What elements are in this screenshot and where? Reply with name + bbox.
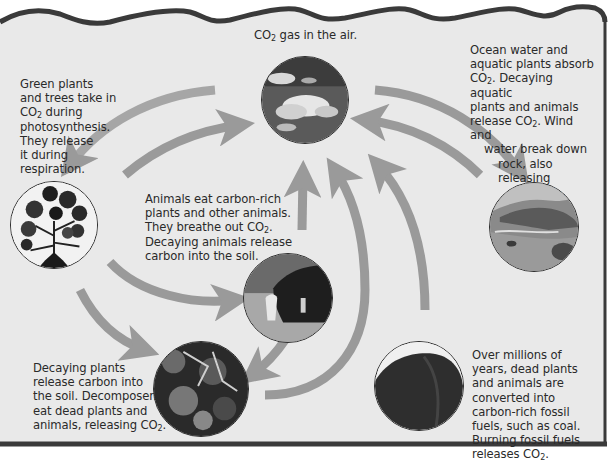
caption-text: the soil. Decomposers — [33, 389, 160, 403]
caption-line: photosynthesis. — [20, 120, 116, 134]
caption-line: and animals are — [472, 376, 580, 390]
caption-text: releases CO — [472, 447, 540, 461]
decomposing-soil-image — [153, 341, 249, 437]
soil-caption: Decaying plants release carbon into the … — [33, 361, 166, 432]
caption-line: eat dead plants and — [33, 404, 166, 418]
caption-text: during — [42, 105, 82, 119]
caption-line: Burning fossil fuels — [472, 433, 580, 447]
coal-icon — [375, 342, 463, 430]
air-caption-text-post: gas in the air. — [276, 28, 357, 42]
caption-line: They release — [20, 134, 116, 148]
caption-line: aquatic plants absorb — [470, 57, 595, 71]
caption-line: carbon-rich fossil — [472, 405, 580, 419]
caption-line: Decaying plants — [33, 361, 166, 375]
caption-line: Green plants — [20, 77, 116, 91]
caption-line: years, dead plants — [472, 362, 580, 376]
caption-text: release carbon into — [33, 375, 143, 389]
animals-caption: Animals eat carbon-rich plants and other… — [145, 192, 292, 263]
caption-text: it during — [20, 148, 68, 162]
caption-text: Ocean water and — [470, 43, 568, 57]
caption-text: . — [269, 220, 273, 234]
caption-text: animals, releasing CO — [33, 418, 158, 432]
air-caption: CO2 gas in the air. — [254, 28, 357, 42]
coal-lump-image — [374, 341, 464, 431]
caption-text: CO — [20, 105, 37, 119]
caption-line: and trees take in — [20, 91, 116, 105]
ocean-icon — [490, 183, 578, 271]
caption-line: respiration. — [20, 162, 116, 176]
cow-icon — [244, 254, 332, 342]
plant-icon — [11, 182, 97, 268]
caption-text: and trees take in — [20, 91, 116, 105]
caption-text: They breathe out CO — [145, 220, 264, 234]
caption-line: plants and other animals. — [145, 206, 292, 220]
caption-text: They release — [20, 134, 93, 148]
caption-line: animals, releasing CO2. — [33, 418, 166, 432]
caption-text: water break down — [484, 142, 587, 156]
caption-text: rock, also releasing — [498, 157, 553, 185]
caption-line: release CO2. Wind and — [470, 114, 595, 142]
caption-text: Animals eat carbon-rich — [145, 192, 281, 206]
air-caption-text: CO — [254, 28, 271, 42]
caption-line: CO2. Decaying aquatic — [470, 71, 595, 99]
caption-line: plants and animals — [470, 100, 595, 114]
caption-text: . — [163, 418, 167, 432]
caption-text: carbon into the soil. — [145, 249, 259, 263]
caption-line: Over millions of — [472, 348, 580, 362]
caption-text: eat dead plants and — [33, 404, 147, 418]
caption-line: the soil. Decomposers — [33, 389, 166, 403]
caption-line: converted into — [472, 391, 580, 405]
fossil-caption: Over millions of years, dead plants and … — [472, 348, 580, 462]
caption-text: and animals are — [472, 376, 564, 390]
caption-text: converted into — [472, 391, 555, 405]
caption-text: plants and animals — [470, 100, 578, 114]
caption-text: years, dead plants — [472, 362, 578, 376]
caption-text: carbon-rich fossil — [472, 405, 570, 419]
green-plant-image — [10, 181, 98, 269]
plants-caption: Green plants and trees take in CO2 durin… — [20, 77, 116, 176]
arrow-animals-to-air — [302, 175, 303, 230]
caption-line: CO2 during — [20, 105, 116, 119]
caption-line: rock, also releasing — [470, 157, 595, 185]
soil-icon — [154, 342, 248, 436]
ocean-coast-image — [489, 182, 579, 272]
caption-text: release CO — [470, 114, 532, 128]
caption-line: fuels, such as coal. — [472, 419, 580, 433]
clouds-sky-image — [261, 56, 349, 144]
caption-line: Decaying animals release — [145, 235, 292, 249]
ocean-caption: Ocean water and aquatic plants absorb CO… — [470, 43, 595, 199]
caption-text: respiration. — [20, 162, 85, 176]
caption-line: releases CO2. — [472, 447, 580, 461]
caption-line: Animals eat carbon-rich — [145, 192, 292, 206]
caption-text: CO — [470, 71, 487, 85]
caption-text: photosynthesis. — [20, 120, 110, 134]
caption-line: They breathe out CO2. — [145, 220, 292, 234]
caption-text: plants and other animals. — [145, 206, 291, 220]
caption-text: Burning fossil fuels — [472, 433, 580, 447]
caption-text: Decaying animals release — [145, 235, 292, 249]
grazing-cow-image — [243, 253, 333, 343]
caption-text: aquatic plants absorb — [470, 57, 594, 71]
caption-line: release carbon into — [33, 375, 166, 389]
caption-text: fuels, such as coal. — [472, 419, 580, 433]
clouds-icon — [262, 57, 348, 143]
carbon-cycle-diagram: CO2 gas in the air. Green plants and tre… — [0, 0, 608, 463]
caption-line: water break down — [470, 142, 595, 156]
caption-line: it during — [20, 148, 116, 162]
caption-text: Decaying plants — [33, 361, 125, 375]
caption-text: Over millions of — [472, 348, 562, 362]
caption-text: . — [545, 447, 549, 461]
caption-line: Ocean water and — [470, 43, 595, 57]
caption-text: Green plants — [20, 77, 93, 91]
